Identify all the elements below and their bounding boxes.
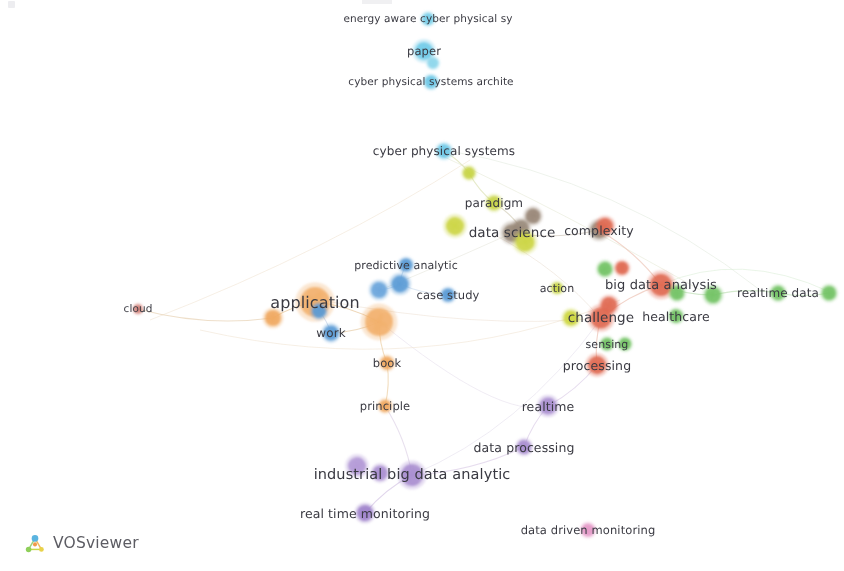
- node-label[interactable]: paper: [407, 44, 441, 58]
- node-label[interactable]: book: [373, 356, 401, 370]
- network-edge: [495, 235, 600, 318]
- vosviewer-logo-text: VOSviewer: [53, 534, 139, 552]
- node-label[interactable]: healthcare: [642, 309, 710, 324]
- network-node[interactable]: [613, 259, 630, 276]
- node-label[interactable]: cloud: [124, 303, 153, 315]
- network-node[interactable]: [361, 304, 398, 341]
- node-label[interactable]: big data analysis: [605, 278, 717, 293]
- node-label[interactable]: case study: [417, 288, 480, 302]
- node-label[interactable]: data science: [469, 225, 556, 241]
- network-node[interactable]: [368, 279, 389, 300]
- network-edge: [200, 300, 620, 349]
- node-label[interactable]: industrial big data analytic: [314, 467, 511, 483]
- node-label[interactable]: challenge: [568, 310, 634, 326]
- node-label[interactable]: data processing: [474, 440, 575, 455]
- node-label[interactable]: real time monitoring: [300, 506, 430, 521]
- node-label[interactable]: work: [316, 326, 345, 340]
- node-label[interactable]: complexity: [564, 223, 634, 238]
- node-label[interactable]: data driven monitoring: [521, 523, 656, 537]
- vosviewer-map-container[interactable]: energy aware cyber physical sypapercyber…: [0, 0, 844, 571]
- network-node[interactable]: [443, 214, 467, 238]
- network-node[interactable]: [820, 284, 838, 302]
- node-label[interactable]: energy aware cyber physical sy: [343, 13, 512, 25]
- node-label[interactable]: predictive analytic: [354, 259, 458, 272]
- network-edge: [138, 309, 273, 321]
- network-nodes[interactable]: [132, 11, 838, 538]
- node-label[interactable]: processing: [563, 358, 631, 373]
- network-node[interactable]: [461, 165, 477, 181]
- vosviewer-network-logo-icon: [24, 532, 46, 554]
- vosviewer-logo[interactable]: VOSviewer: [24, 532, 139, 554]
- node-label[interactable]: paradigm: [465, 196, 523, 210]
- node-label[interactable]: action: [540, 282, 574, 295]
- node-label[interactable]: cyber physical systems: [373, 144, 515, 158]
- node-label[interactable]: realtime data: [737, 286, 819, 300]
- network-node[interactable]: [389, 273, 411, 295]
- node-label[interactable]: application: [270, 293, 359, 312]
- network-edge: [380, 322, 548, 408]
- node-label[interactable]: realtime: [522, 399, 575, 414]
- node-label[interactable]: cyber physical systems archite: [348, 76, 513, 88]
- node-label[interactable]: sensing: [586, 338, 629, 351]
- network-node[interactable]: [596, 260, 614, 278]
- node-label[interactable]: principle: [360, 399, 411, 413]
